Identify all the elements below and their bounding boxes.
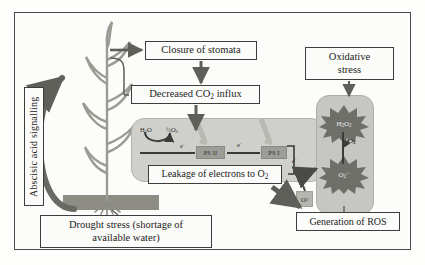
water-o: O <box>147 126 152 133</box>
oxidative-stress-line1: Oxidative <box>329 51 370 63</box>
electron-label-2: e- <box>237 141 241 148</box>
o2-chip-sub: 2 <box>306 197 308 202</box>
ps1-label: PS I <box>268 149 279 156</box>
o2-mid-sub: 2 <box>353 140 356 145</box>
vessel-internal-arrow <box>338 130 352 168</box>
box-leakage-of-electrons[interactable]: Leakage of electrons to O2 <box>148 165 282 184</box>
electron-label-1: e- <box>180 142 184 149</box>
half-o2-main: ½O <box>166 126 176 133</box>
ps2-label: PS II <box>204 149 218 156</box>
thylakoid-membrane-left <box>140 152 195 154</box>
abscisic-acid-signalling-label: Abscisic acid signalling <box>28 96 40 196</box>
leakage-subscript: 2 <box>265 173 269 181</box>
electron-1-charge: - <box>183 142 185 147</box>
closure-of-stomata-label: Closure of stomata <box>161 44 240 56</box>
half-o2-sub: 2 <box>176 129 178 134</box>
decreased-co2-influx-label: Decreased CO2 influx <box>149 88 241 102</box>
drought-stress-line1: Drought stress (shortage of <box>69 219 183 231</box>
box-generation-of-ros[interactable]: Generation of ROS <box>296 212 400 231</box>
electron-bracket <box>286 144 298 176</box>
box-closure-of-stomata[interactable]: Closure of stomata <box>145 41 257 60</box>
water-label: H2O <box>140 126 152 134</box>
generation-of-ros-label: Generation of ROS <box>309 216 386 228</box>
leakage-text: Leakage of electrons to O <box>162 168 265 179</box>
leakage-label: Leakage of electrons to O2 <box>162 168 269 181</box>
half-oxygen-label: ½O2 <box>166 126 178 134</box>
light-arrow-psi <box>258 118 274 148</box>
light-arrow-psii <box>193 118 209 148</box>
drought-stress-line2: available water) <box>92 232 159 244</box>
box-oxidative-stress[interactable]: Oxidative stress <box>305 47 394 80</box>
oxidative-stress-line2: stress <box>338 64 361 76</box>
oxygen-chip: O2 <box>296 191 313 207</box>
thylakoid-membrane-right <box>227 152 260 154</box>
oxygen-input-label: O2 <box>348 137 356 145</box>
box-abscisic-acid-signalling[interactable]: Abscisic acid signalling <box>24 87 44 206</box>
co2-tail: influx <box>214 88 242 99</box>
co2-text: Decreased CO <box>149 88 210 99</box>
box-drought-stress[interactable]: Drought stress (shortage of available wa… <box>40 215 212 248</box>
diagram-canvas: PS II PS I H2O ½O2 e- e- e- H2O2 <box>0 0 425 265</box>
electron-2-charge: - <box>240 141 242 146</box>
box-decreased-co2-influx[interactable]: Decreased CO2 influx <box>131 85 260 104</box>
